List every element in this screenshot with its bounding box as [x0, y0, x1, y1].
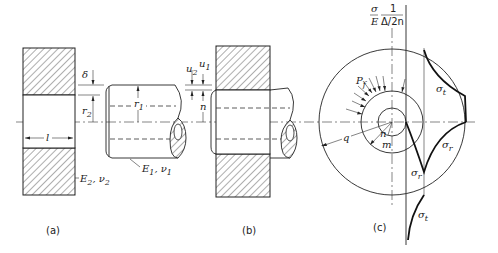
- panel-a: l r2 δ E2, ν2 r1 E1, ν1 (a): [23, 48, 186, 236]
- label-e1-nu1: E1, ν1: [141, 163, 172, 177]
- label-sigma-t-top: σt: [436, 83, 447, 97]
- panel-c: σ E 1 Δ/2n Pf q m n: [319, 3, 466, 245]
- label-pf: Pf: [355, 75, 368, 89]
- panel-b: u2 u1 n (b): [185, 46, 297, 236]
- label-n-radius: n: [380, 128, 386, 139]
- label-r2: r2: [82, 105, 92, 119]
- sigma-t-hub-curve: [424, 50, 466, 122]
- axis-label-delta: Δ/2n: [381, 16, 404, 27]
- axis-label-one: 1: [390, 3, 396, 14]
- label-delta: δ: [82, 69, 88, 80]
- caption-a: (a): [46, 225, 60, 236]
- label-u2: u2: [186, 63, 198, 77]
- arrow-icon: [137, 86, 140, 91]
- caption-c: (c): [373, 222, 386, 233]
- arrow-icon: [92, 96, 95, 101]
- axis-label-e: E: [370, 16, 379, 27]
- arrow-icon: [202, 91, 205, 96]
- arrow-icon: [92, 80, 95, 85]
- arrow-icon: [202, 80, 205, 85]
- label-sigma-r-right: σr: [442, 139, 454, 153]
- label-u1: u1: [199, 58, 211, 72]
- caption-b: (b): [242, 225, 256, 236]
- shaft-bore-hole: [286, 125, 294, 141]
- axis-label-sigma: σ: [371, 3, 379, 14]
- hub-lower-section: [23, 148, 75, 195]
- label-n: n: [200, 101, 206, 112]
- hub-bore: [216, 90, 270, 154]
- arrow-icon: [191, 80, 194, 85]
- hub-lower-section: [216, 154, 270, 197]
- shaft-bore-hole: [174, 124, 182, 140]
- hub-upper-section: [23, 48, 75, 95]
- press-fit-diagram: l r2 δ E2, ν2 r1 E1, ν1 (a): [0, 0, 498, 253]
- label-sigma-r-low: σr: [411, 167, 423, 181]
- shaft-outline-top: [270, 88, 294, 120]
- hub-upper-section: [216, 46, 270, 90]
- label-e2-nu2: E2, ν2: [79, 173, 110, 187]
- shaft-outline-top: [112, 85, 181, 130]
- label-l: l: [46, 132, 49, 143]
- leader-line: [130, 159, 140, 167]
- label-q: q: [343, 132, 349, 143]
- label-m: m: [382, 139, 391, 150]
- arrow-icon: [191, 91, 194, 96]
- label-sigma-t-bottom: σt: [418, 209, 429, 223]
- sigma-r-curve: [406, 122, 466, 172]
